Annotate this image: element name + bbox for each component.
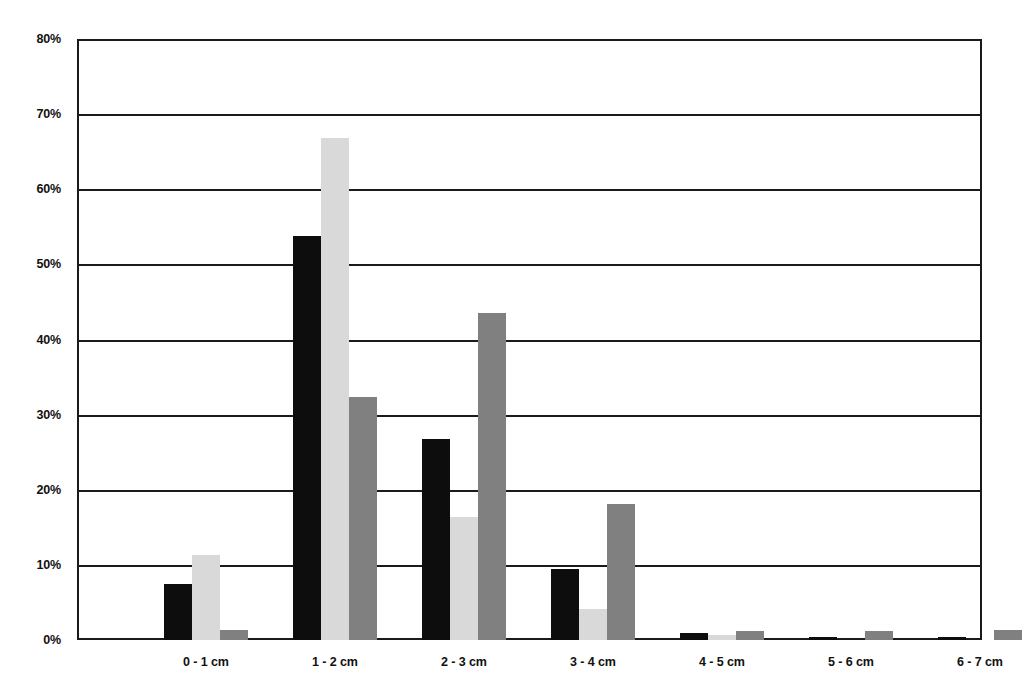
y-axis-tick-label: 30% [37,408,61,422]
x-axis-tick-label: 5 - 6 cm [828,655,874,669]
gridline [79,565,980,567]
x-axis-tick-label: 6 - 7 cm [957,655,1003,669]
x-axis-tick-label: 2 - 3 cm [441,655,487,669]
x-axis: 0 - 1 cm1 - 2 cm2 - 3 cm3 - 4 cm4 - 5 cm… [77,655,982,685]
x-axis-tick-label: 0 - 1 cm [183,655,229,669]
y-axis-tick-label: 70% [37,107,61,121]
gridline [79,114,980,116]
y-axis-tick-label: 60% [37,182,61,196]
y-axis-tick-label: 0% [43,633,61,647]
x-axis-tick-label: 3 - 4 cm [570,655,616,669]
y-axis: 0%10%20%30%40%50%60%70%80% [0,0,70,698]
y-axis-tick-label: 40% [37,333,61,347]
x-axis-tick-label: 1 - 2 cm [312,655,358,669]
x-axis-tick-label: 4 - 5 cm [699,655,745,669]
plot-area [77,39,982,640]
gridline [79,490,980,492]
y-axis-tick-label: 10% [37,558,61,572]
gridline [79,415,980,417]
y-axis-tick-label: 20% [37,483,61,497]
y-axis-tick-label: 50% [37,257,61,271]
gridline [79,264,980,266]
gridline [79,340,980,342]
bar [994,630,1022,640]
y-axis-tick-label: 80% [37,32,61,46]
gridline [79,189,980,191]
